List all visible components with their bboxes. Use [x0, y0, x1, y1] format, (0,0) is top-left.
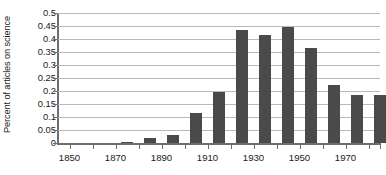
y-tick-label: 0.15 [14, 99, 56, 109]
bar [167, 135, 180, 143]
y-tick-label: 0.35 [14, 47, 56, 57]
x-tickmark [116, 144, 117, 149]
x-axis-line [57, 143, 381, 145]
bar [351, 95, 364, 143]
y-tickmark [53, 91, 58, 92]
y-tickmark [53, 117, 58, 118]
y-tickmark [53, 26, 58, 27]
x-tickmark [185, 144, 186, 149]
x-tick-label: 1850 [50, 152, 90, 164]
y-tick-label: 0 [14, 138, 56, 148]
x-tickmark [277, 144, 278, 149]
bar [305, 48, 318, 143]
y-tickmark [53, 52, 58, 53]
x-tickmark [254, 144, 255, 149]
bar [282, 27, 295, 143]
y-tickmark [53, 78, 58, 79]
y-tickmark [53, 130, 58, 131]
x-tick-label: 1870 [96, 152, 136, 164]
y-axis-title: Percent of articles on science [0, 2, 14, 147]
y-tick-label: 0.4 [14, 34, 56, 44]
bar [259, 35, 272, 143]
plot-area [58, 13, 380, 143]
y-tick-label: 0.45 [14, 21, 56, 31]
y-tick-label: 0.5 [14, 8, 56, 18]
x-tick-label: 1970 [326, 152, 366, 164]
y-tick-label: 0.2 [14, 86, 56, 96]
x-tickmark [70, 144, 71, 149]
y-tick-label: 0.1 [14, 112, 56, 122]
x-tickmark [139, 144, 140, 149]
bar [190, 113, 203, 143]
x-tickmark [323, 144, 324, 149]
x-tickmark [346, 144, 347, 149]
y-tickmark [53, 39, 58, 40]
x-tick-label: 1890 [142, 152, 182, 164]
x-tickmark [300, 144, 301, 149]
x-tickmark [93, 144, 94, 149]
bar [236, 30, 249, 143]
x-tickmark [208, 144, 209, 149]
y-tick-label: 0.25 [14, 73, 56, 83]
x-tick-label: 1930 [234, 152, 274, 164]
bars-layer [58, 13, 380, 143]
x-tick-label: 1910 [188, 152, 228, 164]
x-tick-label: 1950 [280, 152, 320, 164]
x-tickmark [369, 144, 370, 149]
y-tickmark [53, 104, 58, 105]
bar [213, 92, 226, 143]
y-tick-label: 0.3 [14, 60, 56, 70]
y-axis-tick-labels: 0.50.450.40.350.30.250.20.150.10.050 [14, 0, 56, 152]
y-tickmark [53, 13, 58, 14]
x-axis-end-tick [380, 144, 381, 149]
y-tickmark [53, 65, 58, 66]
bar [374, 95, 386, 143]
bar [328, 85, 341, 144]
x-tickmark [162, 144, 163, 149]
y-tickmark [53, 143, 58, 144]
y-tick-label: 0.05 [14, 125, 56, 135]
x-tickmark [231, 144, 232, 149]
